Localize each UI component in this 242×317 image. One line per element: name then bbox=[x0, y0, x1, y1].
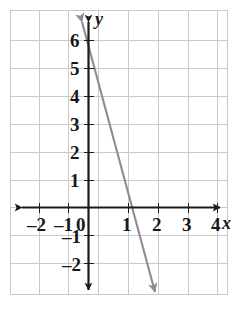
x-tick-label-2: 2 bbox=[152, 215, 162, 234]
y-tick-label-minus1: –1 bbox=[62, 227, 81, 246]
y-tick-label-4: 4 bbox=[70, 87, 80, 106]
y-tick-label-1: 1 bbox=[70, 171, 80, 190]
x-tick-label-3: 3 bbox=[182, 215, 192, 234]
y-tick-label-5: 5 bbox=[70, 59, 80, 78]
y-tick-label-6: 6 bbox=[70, 31, 80, 50]
y-tick-label-2: 2 bbox=[70, 143, 80, 162]
x-axis-label: x bbox=[222, 214, 231, 232]
graph-figure: –2 –1 0 1 2 3 4 6 5 4 3 2 1 –1 –2 x y bbox=[0, 0, 242, 317]
x-tick-label-4: 4 bbox=[211, 215, 221, 234]
x-tick-label-minus2: –2 bbox=[27, 215, 46, 234]
coordinate-plane bbox=[0, 0, 242, 317]
y-tick-label-minus2: –2 bbox=[62, 255, 81, 274]
x-tick-label-1: 1 bbox=[122, 215, 132, 234]
y-axis-label: y bbox=[95, 10, 103, 28]
y-tick-label-3: 3 bbox=[70, 115, 80, 134]
